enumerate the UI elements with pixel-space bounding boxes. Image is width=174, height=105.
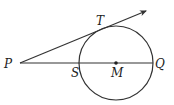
label-s: S: [71, 66, 79, 80]
label-t: T: [96, 14, 105, 28]
geometry-diagram: P T S M Q: [0, 0, 174, 105]
label-m: M: [110, 66, 124, 80]
tangent-ray-pt: [20, 11, 146, 63]
center-point-m: [114, 61, 118, 65]
label-q: Q: [155, 57, 165, 71]
label-p: P: [3, 57, 13, 71]
